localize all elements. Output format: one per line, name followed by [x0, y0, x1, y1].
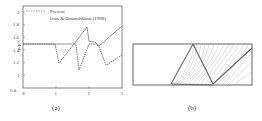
panel-b-contour: (b)	[131, 0, 262, 121]
x-tick-label: 3	[121, 91, 124, 96]
legend-label-present: Present	[50, 9, 65, 14]
y-tick-label: 1.2	[13, 60, 20, 65]
x-axis-ticks: 0 1 2 3	[22, 86, 124, 96]
x-tick-label: 0	[22, 91, 25, 96]
panel-a-chart: 2 1.8 1.6 1.4 1.2 1 0.8 p/p∞ 0 1 2 3 Pre…	[0, 0, 131, 121]
y-tick-label: 2	[17, 10, 20, 15]
x-tick-label: 2	[88, 91, 91, 96]
pressure-line-chart: 2 1.8 1.6 1.4 1.2 1 0.8 p/p∞ 0 1 2 3 Pre…	[0, 0, 131, 121]
series-reference-line	[23, 26, 122, 46]
series-present-line	[23, 44, 122, 70]
y-tick-label: 1.8	[13, 22, 20, 27]
y-tick-label: 1.6	[13, 35, 20, 40]
panel-b-caption: (b)	[177, 104, 207, 112]
panel-a-caption: (a)	[41, 104, 71, 112]
chart-legend: Present Ivan & Ikramshkhan (1998)	[26, 9, 106, 21]
y-tick-label: 1	[17, 73, 20, 78]
contour-plot	[131, 0, 262, 121]
x-tick-label: 1	[55, 91, 58, 96]
legend-label-reference: Ivan & Ikramshkhan (1998)	[50, 16, 106, 21]
y-tick-label: 0.8	[10, 88, 17, 93]
y-axis-label: p/p∞	[16, 40, 21, 50]
